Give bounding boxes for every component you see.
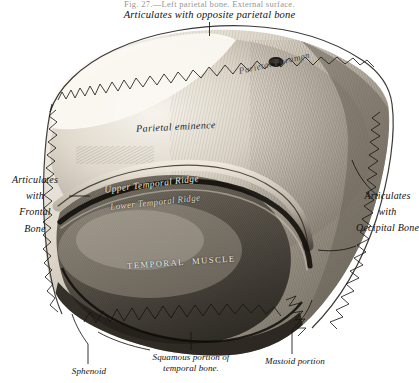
- squamous-line-2: temporal bone.: [132, 363, 250, 374]
- right-label-line-1: Articulates: [356, 188, 419, 204]
- label-sphenoid: Sphenoid: [46, 366, 132, 377]
- right-label-line-2: with: [356, 204, 419, 220]
- label-articulates-occipital: Articulates with Occipital Bone: [356, 188, 419, 237]
- label-squamous-portion: Squamous portion of temporal bone.: [132, 352, 250, 375]
- label-articulates-opposite-parietal: Articulates with opposite parietal bone: [0, 9, 419, 21]
- label-mastoid-portion: Mastoid portion: [247, 356, 343, 367]
- groove-hatching: [76, 146, 154, 164]
- right-label-line-3: Occipital Bone: [356, 220, 419, 236]
- figure-canvas: Fig. 27.—Left parietal bone. External su…: [0, 0, 419, 383]
- left-label-line-2: with: [2, 188, 68, 204]
- squamous-line-1: Squamous portion of: [132, 352, 250, 363]
- parietal-foramen-mark: [269, 57, 284, 67]
- label-articulates-frontal: Articulates with Frontal Bone: [2, 172, 68, 237]
- left-label-line-3: Frontal: [2, 204, 68, 220]
- figure-caption: Fig. 27.—Left parietal bone. External su…: [0, 0, 419, 9]
- left-label-line-4: Bone: [2, 221, 68, 237]
- left-label-line-1: Articulates: [2, 172, 68, 188]
